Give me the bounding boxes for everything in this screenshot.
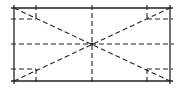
- center-point: [91, 43, 94, 46]
- layout-diagram: [0, 0, 180, 90]
